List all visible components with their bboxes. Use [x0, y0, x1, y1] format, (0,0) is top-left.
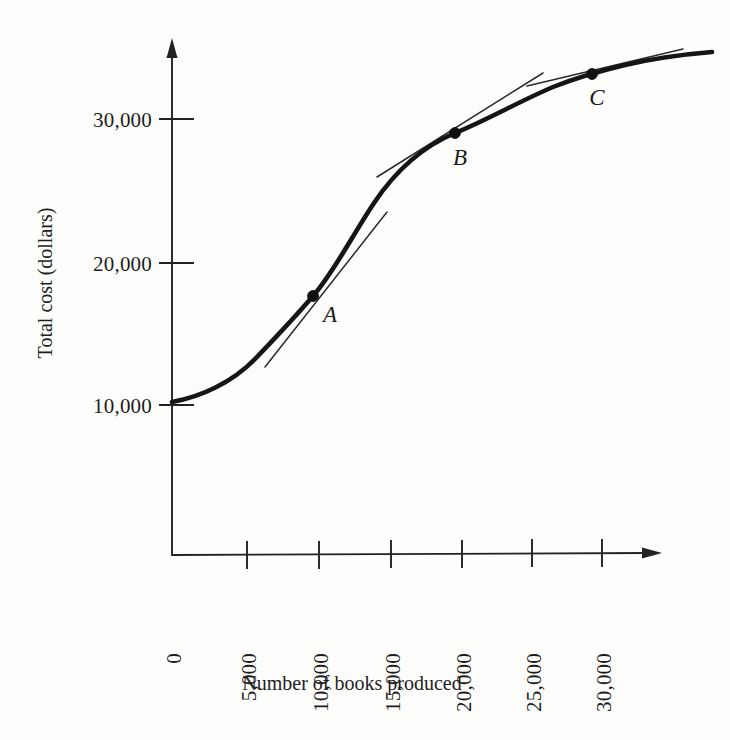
y-tick-label-20000: 20,000 [93, 252, 152, 276]
x-axis-line [172, 553, 648, 555]
x-tick-label-25000: 25,000 [522, 653, 546, 712]
point-marker-a [308, 291, 319, 302]
x-tick-label-30000: 30,000 [592, 653, 616, 712]
point-label-c: C [589, 85, 605, 110]
total-cost-chart: 30,000 20,000 10,000 0 5,000 10,000 15,0… [0, 0, 730, 740]
x-axis-title: Number of books produced [242, 672, 461, 695]
y-axis-arrow-icon [167, 38, 178, 58]
point-markers-group [308, 69, 598, 302]
point-marker-c [587, 69, 598, 80]
x-axis-group [172, 539, 662, 569]
y-axis-group [159, 38, 194, 555]
y-tick-label-30000: 30,000 [93, 108, 152, 132]
tangent-line-at-c [527, 49, 683, 86]
point-marker-b [450, 128, 461, 139]
x-axis-arrow-icon [642, 548, 662, 559]
y-axis-title: Total cost (dollars) [34, 208, 57, 359]
y-tick-labels: 30,000 20,000 10,000 [93, 108, 152, 418]
total-cost-curve [172, 52, 712, 402]
figure-page: 30,000 20,000 10,000 0 5,000 10,000 15,0… [0, 0, 730, 740]
tangent-line-at-a [265, 212, 387, 367]
y-tick-label-10000: 10,000 [93, 394, 152, 418]
point-label-b: B [453, 145, 467, 170]
point-label-a: A [321, 302, 338, 327]
point-labels-group: A B C [321, 85, 605, 327]
x-tick-label-0: 0 [162, 653, 186, 664]
